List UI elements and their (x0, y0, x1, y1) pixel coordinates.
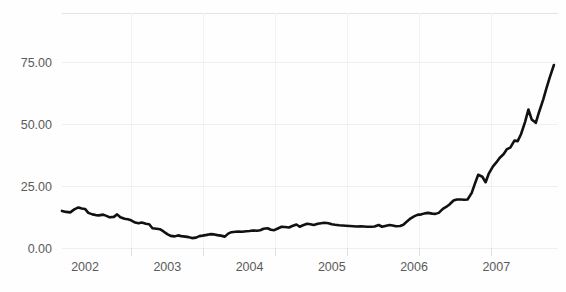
x-tick-label-2007: 2007 (482, 260, 510, 274)
x-tick-label-2003: 2003 (153, 260, 181, 274)
horizontal-gridlines (62, 14, 558, 249)
line-chart: 0.0025.0050.0075.00 20022003200420052006… (0, 0, 566, 292)
chart-canvas: 0.0025.0050.0075.00 20022003200420052006… (0, 0, 566, 292)
x-axis-tick-marks (132, 248, 492, 256)
y-tick-label-25: 25.00 (21, 180, 52, 194)
y-tick-label-50: 50.00 (21, 118, 52, 132)
x-tick-label-2006: 2006 (400, 260, 428, 274)
y-axis-tick-labels: 0.0025.0050.0075.00 (21, 56, 52, 256)
y-tick-label-75: 75.00 (21, 56, 52, 70)
data-series-group (62, 65, 554, 238)
x-axis-tick-labels: 200220032004200520062007 (71, 260, 510, 274)
series-line (62, 65, 554, 238)
x-tick-label-2004: 2004 (236, 260, 264, 274)
x-tick-label-2005: 2005 (318, 260, 346, 274)
y-tick-label-0: 0.00 (28, 242, 52, 256)
x-tick-label-2002: 2002 (71, 260, 99, 274)
